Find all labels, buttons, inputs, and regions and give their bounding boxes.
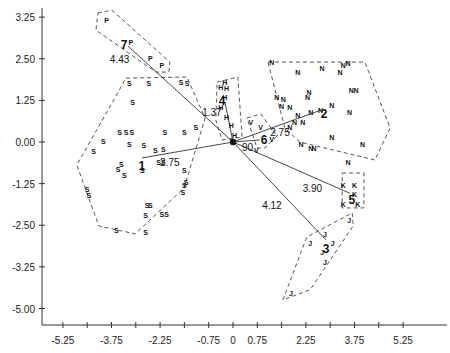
axes (42, 8, 447, 325)
centroid-label-j: 3 (323, 242, 330, 256)
point-s: S (116, 166, 121, 173)
point-p: P (129, 39, 134, 46)
point-n: N (311, 145, 316, 152)
point-s: S (127, 141, 132, 148)
point-j: J (323, 231, 327, 238)
cluster-scatter-chart: -5.25-3.75-2.25-0.7500.752.253.755.25 3.… (0, 0, 450, 353)
point-s: S (182, 167, 187, 174)
point-s: S (130, 99, 135, 106)
point-s: S (180, 189, 185, 196)
y-tick-label: -2.50 (12, 220, 35, 231)
y-tick-label: 2.50 (16, 54, 36, 65)
point-n: N (360, 141, 365, 148)
x-tick-label: 5.25 (393, 335, 413, 346)
point-s: S (122, 172, 127, 179)
y-ticks: 3.252.501.250.00-1.25-2.50-3.25-5.00 (12, 12, 45, 314)
point-j: J (289, 290, 293, 297)
x-tick-label: 2.25 (296, 335, 316, 346)
hull-s (77, 77, 205, 234)
point-k: K (352, 182, 357, 189)
point-h: H (224, 114, 229, 121)
distance-label-p: 4.43 (110, 54, 130, 65)
centroid-label-k: 5 (349, 193, 356, 207)
point-n: N (329, 102, 334, 109)
point-s: S (143, 212, 148, 219)
point-n: N (281, 96, 286, 103)
point-n: N (299, 141, 304, 148)
point-h: H (224, 85, 229, 92)
origin-point (230, 139, 236, 145)
point-k: K (341, 182, 346, 189)
distance-label-j: 4.12 (262, 200, 282, 211)
centroid-label-p: 7 (121, 38, 128, 52)
point-n: N (354, 87, 359, 94)
point-n: N (295, 69, 300, 76)
point-p: P (148, 55, 153, 62)
centroid-label-h: 4 (219, 94, 226, 108)
point-s: S (143, 229, 148, 236)
point-s: S (117, 129, 122, 136)
y-tick-label: 3.25 (16, 12, 36, 23)
point-h: H (232, 132, 237, 139)
point-n: N (300, 119, 305, 126)
point-s: S (146, 80, 151, 87)
point-n: N (347, 109, 352, 116)
point-n: N (305, 94, 310, 101)
point-s: S (193, 124, 198, 131)
point-j: J (308, 240, 312, 247)
distance-label-s: 2.75 (160, 157, 180, 168)
point-k: K (341, 201, 346, 208)
x-tick-label: -2.25 (149, 335, 172, 346)
distance-label-k: 3.90 (303, 183, 323, 194)
distance-label-n: 2.75 (270, 127, 290, 138)
point-s: S (153, 147, 158, 154)
point-s: S (91, 148, 96, 155)
point-n: N (320, 65, 325, 72)
x-tick-label: -5.25 (52, 335, 75, 346)
point-j: J (323, 259, 327, 266)
centroid-label-v: 6 (261, 133, 268, 147)
point-h: H (229, 122, 234, 129)
point-s: S (124, 129, 129, 136)
point-n: N (308, 109, 313, 116)
distance-label-h: 1.37 (202, 107, 222, 118)
x-tick-label: 3.75 (345, 335, 365, 346)
point-k: K (355, 201, 360, 208)
point-n: N (287, 104, 292, 111)
y-tick-label: -5.00 (12, 304, 35, 315)
point-n: N (269, 59, 274, 66)
point-s: S (148, 202, 153, 209)
point-s: S (86, 192, 91, 199)
y-tick-label: -1.25 (12, 179, 35, 190)
y-tick-label: 0.00 (16, 137, 36, 148)
point-s: S (161, 146, 166, 153)
point-s: S (130, 129, 135, 136)
point-v: V (258, 124, 263, 131)
point-p: P (159, 62, 164, 69)
point-s: S (142, 142, 147, 149)
point-n: N (329, 134, 334, 141)
point-s: S (179, 79, 184, 86)
point-j: J (331, 240, 335, 247)
point-v: V (248, 119, 253, 126)
x-tick-label: 0.75 (248, 335, 268, 346)
point-j: J (347, 217, 351, 224)
point-n: N (337, 69, 342, 76)
x-tick-label: 0 (230, 335, 236, 346)
x-ticks: -5.25-3.75-2.25-0.7500.752.253.755.25 (52, 322, 414, 346)
point-s: S (114, 227, 119, 234)
y-tick-label: -3.25 (12, 262, 35, 273)
point-p: P (104, 17, 109, 24)
point-s: S (101, 138, 106, 145)
x-tick-label: -0.75 (197, 335, 220, 346)
point-n: N (345, 60, 350, 67)
point-n: N (274, 94, 279, 101)
point-s: S (182, 129, 187, 136)
y-tick-label: 1.25 (16, 95, 36, 106)
point-n: N (292, 119, 297, 126)
centroid-label-s: 1 (139, 159, 146, 173)
point-n: N (279, 103, 284, 110)
centroid-label-n: 2 (321, 107, 328, 121)
x-tick-label: -3.75 (100, 335, 123, 346)
ray-p (128, 46, 233, 142)
